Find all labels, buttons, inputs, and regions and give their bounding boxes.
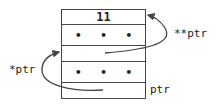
arrows [0, 0, 217, 107]
double-ptr-label: **ptr [174, 27, 207, 40]
double-ptr-arrow [105, 15, 167, 53]
ptr-label: ptr [150, 83, 170, 96]
single-ptr-label: *ptr [9, 63, 36, 76]
single-ptr-arrow [42, 52, 103, 90]
